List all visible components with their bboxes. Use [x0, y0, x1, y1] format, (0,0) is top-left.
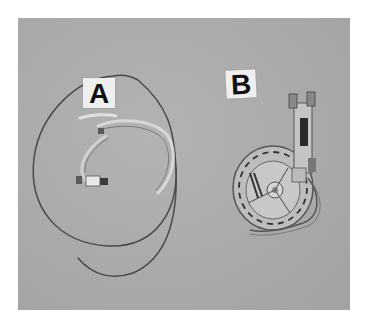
device-b	[233, 92, 320, 235]
devices-illustration	[18, 18, 350, 310]
photograph: A B	[18, 18, 350, 310]
label-b: B	[225, 69, 256, 99]
label-a: A	[83, 78, 115, 108]
